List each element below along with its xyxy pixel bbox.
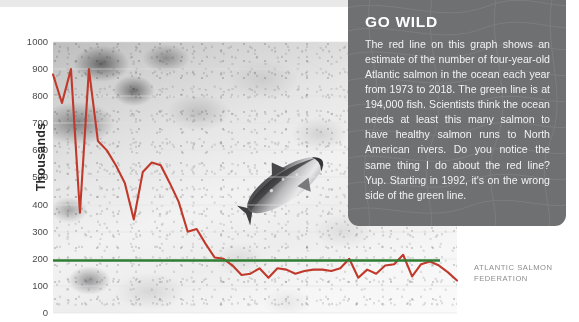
source-credit: ATLANTIC SALMON FEDERATION (474, 262, 574, 285)
source-credit-line-1: ATLANTIC SALMON (474, 262, 574, 273)
y-axis-title: Thousands (34, 97, 48, 217)
y-tick-300: 300 (2, 226, 48, 237)
figure-root: 1000 900 800 700 600 500 400 300 200 100… (0, 0, 579, 322)
y-tick-200: 200 (2, 253, 48, 264)
go-wild-callout-card: GO WILD The red line on this graph shows… (348, 0, 566, 226)
callout-body-text: The red line on this graph shows an esti… (365, 37, 550, 204)
callout-title: GO WILD (365, 14, 550, 30)
y-tick-0: 0 (2, 307, 48, 318)
source-credit-line-2: FEDERATION (474, 273, 574, 284)
y-tick-1000: 1000 (2, 36, 48, 47)
y-tick-900: 900 (2, 63, 48, 74)
y-tick-100: 100 (2, 280, 48, 291)
